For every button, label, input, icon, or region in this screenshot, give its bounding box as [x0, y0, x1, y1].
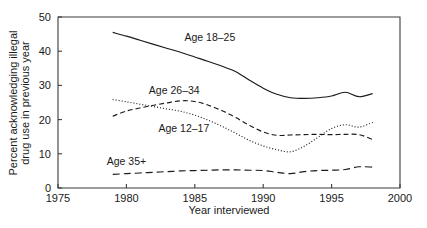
- x-tick-label: 1990: [251, 192, 275, 204]
- series-line-age-12-17: [113, 99, 373, 151]
- y-tick-label: 30: [39, 79, 51, 91]
- series-label-group: Age 18–25Age 26–34Age 12–17Age 35+: [107, 31, 236, 167]
- y-tick-label: 0: [45, 182, 51, 194]
- x-axis-title: Year interviewed: [189, 204, 270, 216]
- x-tick-label: 1995: [319, 192, 343, 204]
- x-axis-ticks: [58, 184, 400, 188]
- series-label-age-26-34: Age 26–34: [149, 84, 200, 96]
- y-axis-title-line-2: drug use in previous year: [19, 41, 31, 165]
- x-tick-label: 1980: [114, 192, 138, 204]
- y-tick-label: 10: [39, 148, 51, 160]
- x-tick-label: 1985: [183, 192, 207, 204]
- series-label-age-12-17: Age 12–17: [158, 122, 209, 134]
- line-chart-canvas: 197519801985199019952000 01020304050 Age…: [0, 0, 427, 228]
- y-tick-label: 20: [39, 114, 51, 126]
- y-axis-title-line-1: Percent acknowledging illegal: [7, 31, 19, 176]
- chart-figure: 197519801985199019952000 01020304050 Age…: [0, 0, 427, 228]
- series-label-age-35: Age 35+: [107, 155, 146, 167]
- series-group: [113, 32, 373, 174]
- y-tick-label: 40: [39, 45, 51, 57]
- y-axis-tick-labels: 01020304050: [39, 11, 51, 194]
- y-axis-ticks: [58, 17, 62, 188]
- series-line-age-35: [113, 167, 373, 175]
- x-axis-tick-labels: 197519801985199019952000: [46, 192, 412, 204]
- x-tick-label: 2000: [388, 192, 412, 204]
- y-tick-label: 50: [39, 11, 51, 23]
- series-label-age-18-25: Age 18–25: [184, 31, 235, 43]
